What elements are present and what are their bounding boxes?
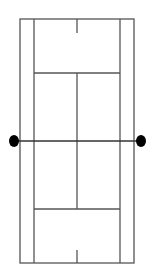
left-net-post [9,135,19,147]
tennis-court-diagram [0,0,154,275]
right-net-post [136,135,146,147]
